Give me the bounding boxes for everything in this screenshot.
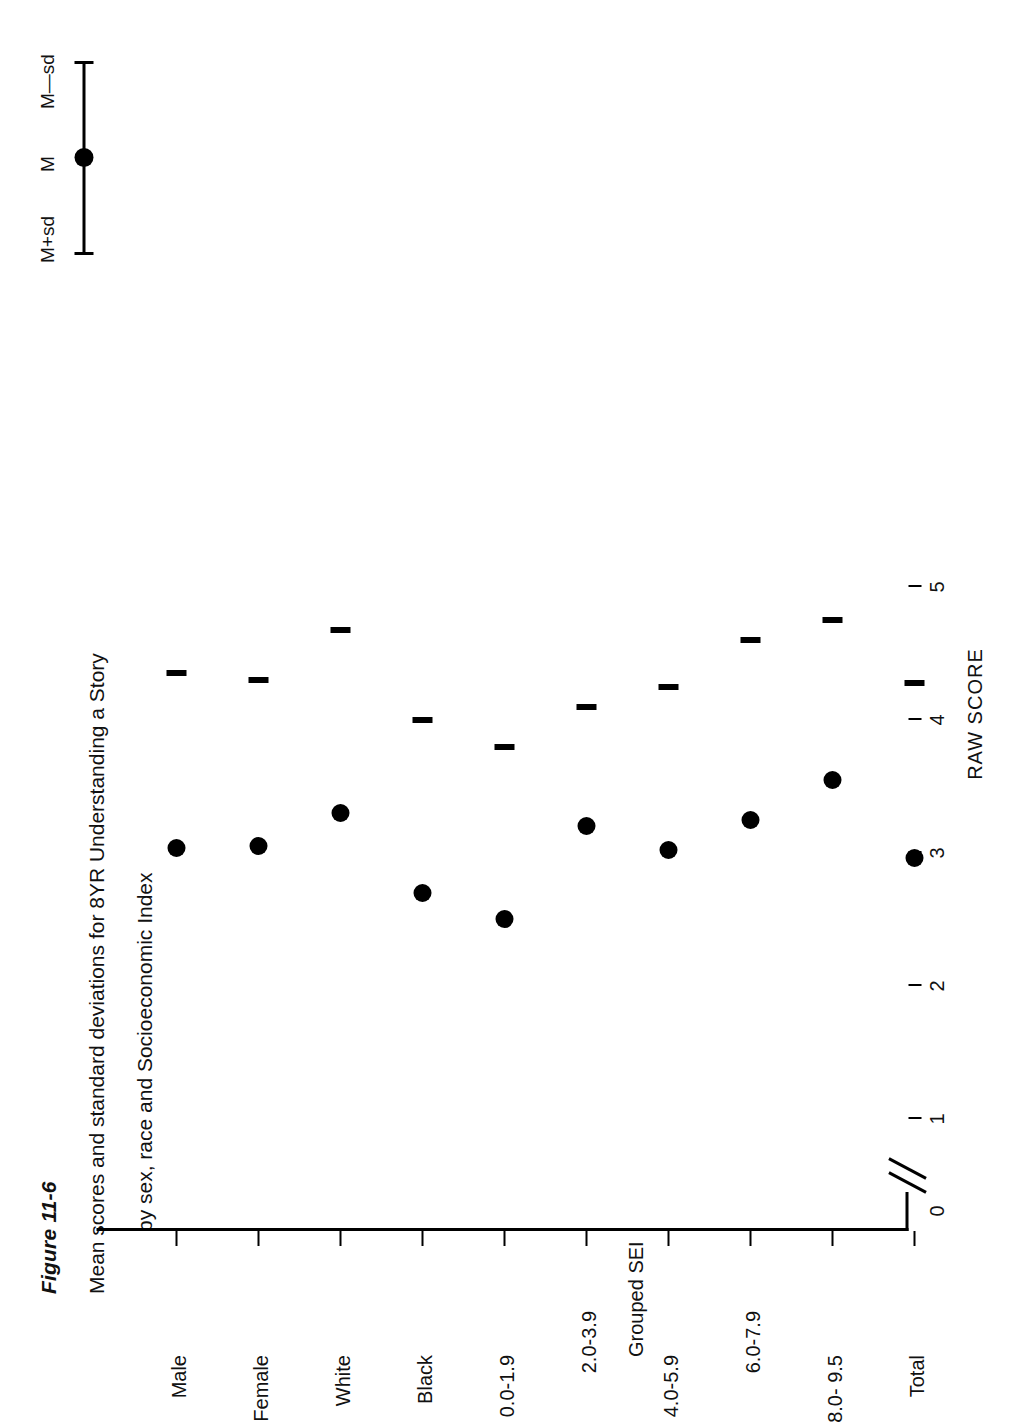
category-label: 8.0- 9.5 (823, 1355, 846, 1423)
error-bar-cap-lower (330, 630, 350, 633)
mean-marker (495, 911, 513, 929)
error-bar-cap-lower (904, 683, 924, 686)
error-bar-cap-lower (822, 620, 842, 623)
category-label: 2.0-3.9 (577, 1311, 600, 1373)
category-label: Female (249, 1355, 272, 1422)
value-axis-tick-label: 2 (925, 966, 948, 1006)
mean-marker (167, 839, 185, 857)
error-bar-cap-lower (166, 673, 186, 676)
value-axis-tick-label: 4 (925, 700, 948, 740)
category-axis-tick (913, 1231, 915, 1246)
category-axis-tick (749, 1231, 751, 1246)
category-axis-title: Grouped SEI (624, 1241, 647, 1357)
category-label: 6.0-7.9 (741, 1311, 764, 1373)
category-axis-line (96, 1228, 908, 1231)
category-label: Male (167, 1355, 190, 1398)
category-axis-tick (421, 1231, 423, 1246)
error-bar-cap-lower (576, 707, 596, 710)
mean-marker (741, 811, 759, 829)
value-axis-tick (908, 718, 921, 720)
mean-marker (659, 841, 677, 859)
error-bar-cap-lower (740, 640, 760, 643)
value-axis-tick-label: 5 (925, 567, 948, 607)
category-axis-tick (667, 1231, 669, 1246)
error-bar-cap-lower (412, 720, 432, 723)
category-axis-tick (585, 1231, 587, 1246)
mean-marker (249, 837, 267, 855)
category-label: White (331, 1355, 354, 1406)
value-axis-tick-label: 3 (925, 833, 948, 873)
error-bar-cap-lower (658, 687, 678, 690)
mean-marker (413, 884, 431, 902)
error-bar-cap-lower (248, 680, 268, 683)
category-label: Total (905, 1355, 928, 1397)
value-axis-tick (908, 1117, 921, 1119)
category-label: Black (413, 1355, 436, 1404)
value-axis-tick (908, 585, 921, 587)
category-label: 0.0-1.9 (495, 1355, 518, 1417)
value-axis-tick-label: 0 (925, 1191, 948, 1231)
value-axis-tick (908, 984, 921, 986)
error-bar-cap-lower (494, 747, 514, 750)
value-axis-zero-segment (905, 1192, 908, 1231)
mean-marker (577, 817, 595, 835)
category-axis-tick (831, 1231, 833, 1246)
mean-marker (905, 849, 923, 867)
mean-marker (331, 804, 349, 822)
category-axis-tick (175, 1231, 177, 1246)
value-axis-title: RAW SCORE (963, 648, 986, 780)
mean-marker (823, 771, 841, 789)
category-label: 4.0-5.9 (659, 1355, 682, 1417)
category-axis-tick (339, 1231, 341, 1246)
category-axis-tick (257, 1231, 259, 1246)
category-axis-tick (503, 1231, 505, 1246)
value-axis-tick-label: 1 (925, 1099, 948, 1139)
